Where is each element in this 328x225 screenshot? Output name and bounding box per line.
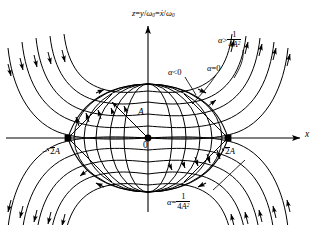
saddle-point-right-marker — [225, 135, 232, 142]
omega-subscript-2: 0 — [172, 12, 175, 18]
saddle-left-label: −2A — [42, 147, 60, 156]
alpha-negative-label: α<0 — [168, 68, 182, 77]
alpha-zero-value: 0 — [216, 63, 220, 73]
alpha-greater-label: α>14A2 — [218, 30, 241, 49]
origin-label-text: 0 — [143, 140, 148, 150]
amplitude-label-text: A — [138, 107, 144, 117]
phase-portrait-figure: z=y/ω0=ẋ/ω0 x 0 A −2A 2A α<0 α=0 α>14A2… — [0, 0, 328, 225]
x-axis-label: x — [305, 130, 309, 140]
alpha-neg-value: 0 — [177, 67, 181, 77]
outer-trajectory-lower-left-arrows — [8, 170, 88, 225]
sqrt-icon: 2 — [47, 147, 55, 156]
saddle-right-label: 2A — [222, 147, 235, 156]
outer-trajectory-upper-right-arrows — [208, 40, 290, 106]
outer-trajectory-lower-right — [148, 137, 288, 225]
amp-left: A — [55, 146, 61, 156]
den-pow-1: 2 — [238, 40, 241, 46]
amp-right: A — [230, 146, 236, 156]
alpha-equal-critical-label: α=14A2 — [167, 192, 190, 211]
phase-portrait-canvas — [0, 0, 328, 225]
sqrt-icon-right: 2 — [222, 147, 230, 156]
fraction-critical-2: 14A2 — [176, 192, 190, 211]
fraction-denominator-1: 4A2 — [227, 40, 241, 49]
den-pow-2: 2 — [187, 202, 190, 208]
amplitude-label: A — [138, 108, 144, 118]
alpha-zero-label: α=0 — [207, 64, 221, 73]
saddle-point-left-marker — [65, 135, 72, 142]
outer-trajectory-lower-left — [8, 137, 148, 225]
origin-label: 0 — [143, 141, 148, 151]
fraction-critical-1: 14A2 — [227, 30, 241, 49]
x-axis-label-text: x — [305, 129, 309, 139]
fraction-denominator-2: 4A2 — [176, 202, 190, 211]
y-axis-label: z=y/ω0=ẋ/ω0 — [132, 9, 175, 19]
